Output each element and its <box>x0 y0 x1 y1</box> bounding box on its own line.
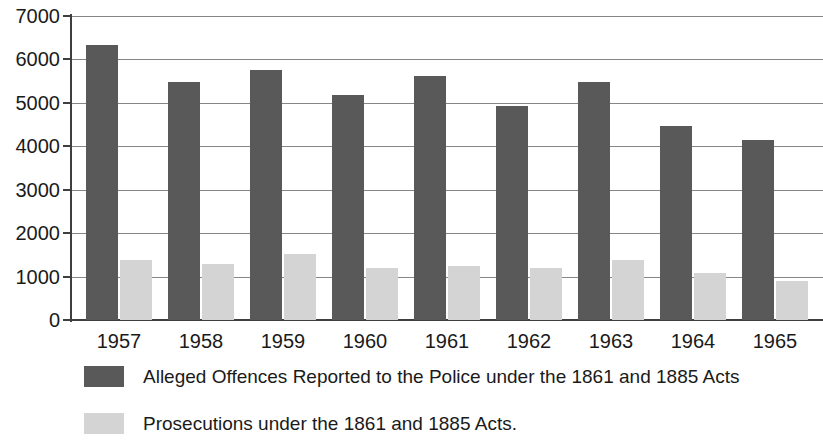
bar-1963-series-2 <box>612 260 644 320</box>
dark-grey-swatch <box>84 366 124 387</box>
bar-1962-series-1 <box>496 106 528 320</box>
y-axis-tick-label: 6000 <box>2 49 60 69</box>
y-axis-tick-label: 1000 <box>2 267 60 287</box>
bar-1960-series-1 <box>332 95 364 320</box>
y-axis-tick <box>63 276 72 278</box>
y-axis-tick-label: 3000 <box>2 180 60 200</box>
bar-1957-series-1 <box>86 45 118 320</box>
y-axis-tick <box>63 15 72 17</box>
bar-1961-series-1 <box>414 76 446 321</box>
y-axis-tick-label: 0 <box>2 310 60 330</box>
y-axis-tick <box>63 58 72 60</box>
y-axis-tick-label: 2000 <box>2 223 60 243</box>
bar-1958-series-1 <box>168 82 200 320</box>
bar-1961-series-2 <box>448 266 480 320</box>
y-axis-tick-label: 4000 <box>2 136 60 156</box>
legend-item-label: Alleged Offences Reported to the Police … <box>143 362 739 391</box>
y-axis-tick-label: 7000 <box>2 6 60 26</box>
bar-1965-series-1 <box>742 140 774 320</box>
bar-1960-series-2 <box>366 268 398 320</box>
bar-1957-series-2 <box>120 260 152 320</box>
bar-1963-series-1 <box>578 82 610 320</box>
bar-1959-series-1 <box>250 70 282 320</box>
bar-chart: 01000200030004000500060007000 1957195819… <box>0 0 823 448</box>
y-axis-tick <box>63 145 72 147</box>
bar-1965-series-2 <box>776 281 808 320</box>
y-axis-tick <box>63 232 72 234</box>
bar-1958-series-2 <box>202 264 234 320</box>
bar-1962-series-2 <box>530 268 562 320</box>
legend-item-label: Prosecutions under the 1861 and 1885 Act… <box>143 409 517 438</box>
y-axis-tick-label: 5000 <box>2 93 60 113</box>
light-grey-swatch <box>84 413 124 434</box>
bar-1964-series-2 <box>694 273 726 320</box>
y-axis-labels: 01000200030004000500060007000 <box>0 0 60 448</box>
bar-1959-series-2 <box>284 254 316 320</box>
y-axis-tick <box>63 189 72 191</box>
bars-layer <box>72 16 823 320</box>
x-axis-label-1965: 1965 <box>724 330 823 352</box>
y-axis-tick <box>63 102 72 104</box>
y-axis-tick <box>63 319 72 321</box>
bar-1964-series-1 <box>660 126 692 320</box>
